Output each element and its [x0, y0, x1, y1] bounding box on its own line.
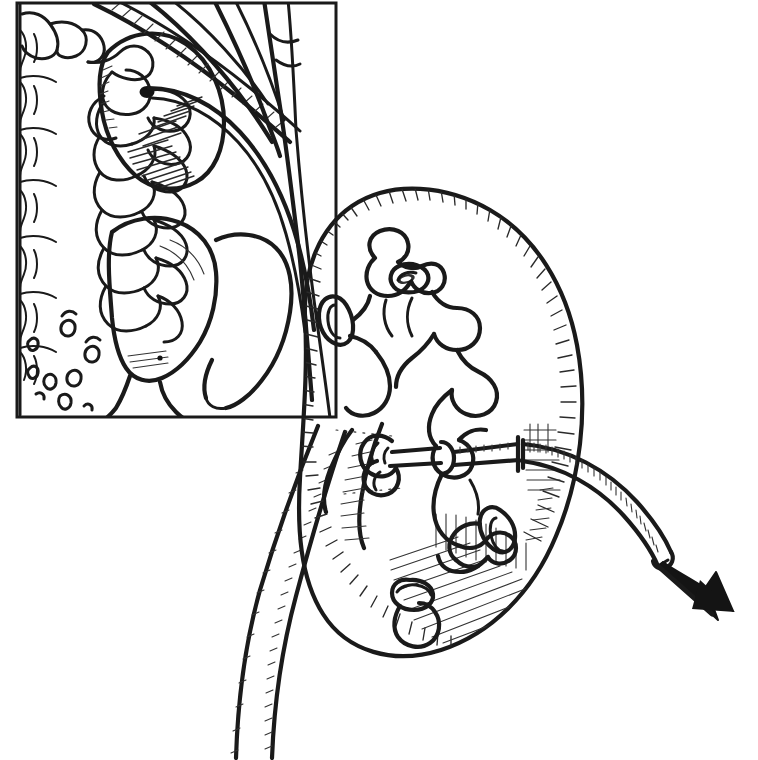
kidney-nephrostomy-figure [0, 0, 758, 760]
canvas-background [0, 0, 758, 760]
medical-illustration [0, 0, 758, 760]
